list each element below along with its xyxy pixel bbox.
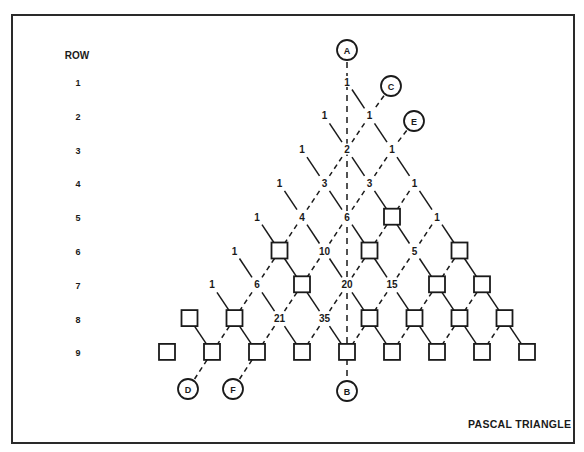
- triangle-edges: [194, 89, 522, 344]
- blank-cell-square: [294, 276, 310, 292]
- solid-edge: [509, 326, 522, 345]
- dashed-edge: [487, 326, 500, 345]
- dashed-edge: [217, 326, 230, 345]
- triangle-value: 1: [254, 212, 260, 223]
- solid-edge: [442, 292, 455, 311]
- solid-edge: [419, 258, 432, 277]
- marker-label-b: B: [344, 387, 351, 397]
- triangle-value: 1: [277, 178, 283, 189]
- row-number: 3: [75, 146, 80, 156]
- solid-edge: [374, 258, 387, 277]
- blank-cell-square: [497, 310, 513, 326]
- diagram-title: PASCAL TRIANGLE: [468, 418, 571, 430]
- solid-edge: [397, 225, 410, 244]
- solid-edge: [329, 191, 342, 210]
- dashed-edge: [352, 123, 365, 142]
- triangle-value: 1: [299, 144, 305, 155]
- dashed-edge: [307, 326, 320, 345]
- blank-cell-square: [474, 344, 490, 360]
- row-number: 4: [75, 179, 80, 189]
- dashed-edge: [374, 225, 387, 244]
- triangle-value: 6: [254, 279, 260, 290]
- solid-edge: [307, 292, 320, 311]
- blank-cell-square: [474, 276, 490, 292]
- blank-cell-square: [362, 243, 378, 259]
- marker-label-c: C: [388, 82, 395, 92]
- marker-label-a: A: [344, 46, 351, 56]
- dashed-edge: [262, 258, 275, 277]
- dashed-edge: [419, 225, 432, 244]
- dashed-edge: [352, 191, 365, 210]
- triangle-value: 1: [344, 77, 350, 88]
- triangle-value: 1: [412, 178, 418, 189]
- blank-cell-square: [362, 310, 378, 326]
- solid-edge: [442, 225, 455, 244]
- dashed-edge: [262, 326, 275, 345]
- triangle-value: 1: [322, 110, 328, 121]
- dashed-edge: [397, 191, 410, 210]
- triangle-value: 2: [344, 144, 350, 155]
- row-header: ROW: [65, 50, 90, 61]
- solid-edge: [307, 225, 320, 244]
- triangle-value: 1: [389, 144, 395, 155]
- dashed-edge: [442, 326, 455, 345]
- blank-cell-square: [429, 344, 445, 360]
- blank-cell-square: [452, 310, 468, 326]
- solid-edge: [374, 123, 387, 142]
- solid-edge: [329, 123, 342, 142]
- solid-edge: [374, 191, 387, 210]
- blank-cell-square: [339, 344, 355, 360]
- row-number: 1: [75, 78, 80, 88]
- dashed-edge: [307, 191, 320, 210]
- row-number: 7: [75, 281, 80, 291]
- solid-edge: [284, 326, 297, 345]
- dashed-edge: [419, 292, 432, 311]
- triangle-value: 1: [232, 246, 238, 257]
- dashed-edge: [284, 292, 297, 311]
- triangle-value: 1: [434, 212, 440, 223]
- dashed-edge: [374, 292, 387, 311]
- triangle-value: 3: [322, 178, 328, 189]
- solid-edge: [262, 225, 275, 244]
- solid-edge: [217, 292, 230, 311]
- row-number: 2: [75, 112, 80, 122]
- marker-label-d: D: [185, 385, 192, 395]
- dashed-edge: [239, 292, 252, 311]
- triangle-value: 6: [344, 212, 350, 223]
- dashed-edge: [397, 326, 410, 345]
- blank-cell-square: [384, 344, 400, 360]
- triangle-value: 5: [412, 246, 418, 257]
- dashed-edge: [240, 360, 252, 379]
- marker-label-f: F: [230, 385, 236, 395]
- dashed-edge: [442, 258, 455, 277]
- blank-cell-square: [384, 209, 400, 225]
- solid-edge: [239, 258, 252, 277]
- solid-edge: [352, 225, 365, 244]
- dashed-edge: [464, 292, 477, 311]
- triangle-value: 1: [367, 110, 373, 121]
- triangle-value: 20: [341, 279, 353, 290]
- triangle-value: 3: [367, 178, 373, 189]
- blank-cell-square: [159, 344, 175, 360]
- solid-edge: [284, 191, 297, 210]
- dashed-edge: [329, 225, 342, 244]
- dashed-edge: [397, 131, 406, 143]
- dashed-edge: [397, 258, 410, 277]
- solid-edge: [352, 89, 365, 108]
- solid-edge: [284, 258, 297, 277]
- solid-edge: [194, 326, 207, 345]
- triangle-value: 21: [274, 313, 286, 324]
- solid-edge: [487, 292, 500, 311]
- row-number: 5: [75, 213, 80, 223]
- dashed-edge: [195, 360, 207, 379]
- dashed-edge: [329, 292, 342, 311]
- solid-edge: [307, 157, 320, 176]
- triangle-value: 35: [319, 313, 331, 324]
- dashed-edge: [374, 157, 387, 176]
- solid-edge: [239, 326, 252, 345]
- blank-cell-square: [452, 243, 468, 259]
- pascal-triangle-diagram: ROW 123456789 11112113311461110516201521…: [0, 0, 584, 452]
- solid-edge: [329, 326, 342, 345]
- blank-cell-square: [429, 276, 445, 292]
- blank-cell-square: [227, 310, 243, 326]
